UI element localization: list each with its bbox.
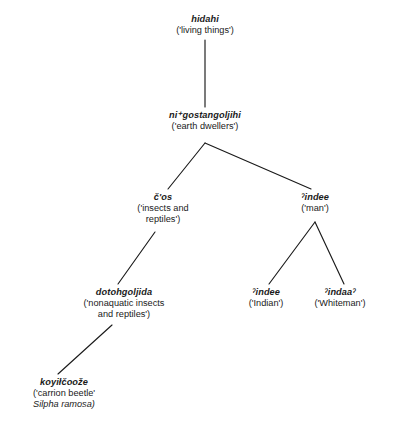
node-insects-reptiles: č'os ('insects and reptiles') <box>137 192 188 226</box>
node-man-term: ˀindee <box>301 192 329 203</box>
node-nonaquatic-gloss-line-2: and reptiles') <box>84 309 165 320</box>
node-earth-dwellers-gloss: ('earth dwellers') <box>169 121 241 132</box>
node-whiteman: ˀindaaˀ ('Whiteman') <box>315 287 366 309</box>
node-earth-dwellers-term: ni⁺gostangoljihi <box>169 110 241 121</box>
node-root-term: hidahi <box>176 14 234 25</box>
taxonomy-tree-figure: hidahi ('living things') ni⁺gostangoljih… <box>0 0 395 438</box>
edge-earth-dwellers-to-insects <box>168 143 205 189</box>
node-man-gloss: ('man') <box>301 203 329 214</box>
edge-insects-to-nonaquatic <box>118 232 155 284</box>
node-carrion-beetle-term: koyiłčoože <box>33 377 95 388</box>
edge-earth-dwellers-to-man <box>205 143 311 189</box>
edge-man-to-indian <box>269 222 315 284</box>
node-whiteman-term: ˀindaaˀ <box>315 287 366 298</box>
node-nonaquatic: dotohgoljida ('nonaquatic insects and re… <box>84 287 165 321</box>
node-nonaquatic-gloss-line-1: ('nonaquatic insects <box>84 298 165 309</box>
node-nonaquatic-term: dotohgoljida <box>84 287 165 298</box>
tree-edge-layer <box>0 0 395 438</box>
node-carrion-beetle-species: Silpha ramosa) <box>33 399 95 410</box>
node-earth-dwellers: ni⁺gostangoljihi ('earth dwellers') <box>169 110 241 132</box>
node-indian-term: ˀindee <box>249 287 284 298</box>
node-man: ˀindee ('man') <box>301 192 329 214</box>
node-insects-reptiles-term: č'os <box>137 192 188 203</box>
node-root: hidahi ('living things') <box>176 14 234 36</box>
node-insects-reptiles-gloss-line-1: ('insects and <box>137 203 188 214</box>
node-insects-reptiles-gloss-line-2: reptiles') <box>137 214 188 225</box>
node-whiteman-gloss: ('Whiteman') <box>315 298 366 309</box>
node-indian-gloss: ('Indian') <box>249 298 284 309</box>
edge-nonaquatic-to-carrion-beetle <box>58 325 112 374</box>
node-carrion-beetle-gloss: ('carrion beetle' <box>33 388 95 399</box>
node-indian: ˀindee ('Indian') <box>249 287 284 309</box>
edge-man-to-whiteman <box>315 222 344 284</box>
node-root-gloss: ('living things') <box>176 25 234 36</box>
node-carrion-beetle: koyiłčoože ('carrion beetle' Silpha ramo… <box>33 377 95 411</box>
